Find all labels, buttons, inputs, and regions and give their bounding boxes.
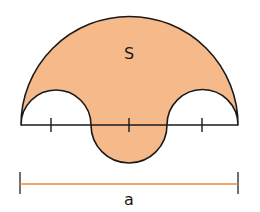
region-label: S [124,44,134,63]
shaded-region-s [21,17,238,164]
dimension-label: a [124,190,134,209]
geometry-figure: S a [0,0,260,212]
